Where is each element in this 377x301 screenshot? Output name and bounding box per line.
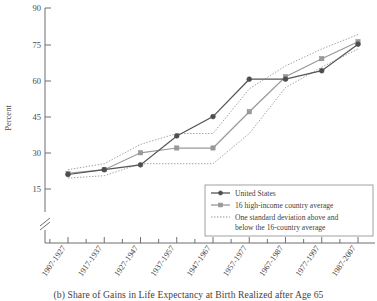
x-axis-tick-labels: 1907-19271917-19371927-19471937-19571947… xyxy=(40,244,358,278)
data-point-us xyxy=(283,77,288,82)
legend-label-us: United States xyxy=(235,189,276,198)
y-axis-ticks xyxy=(45,8,51,189)
data-point-us xyxy=(102,167,107,172)
data-point-us xyxy=(66,172,71,177)
data-point-us xyxy=(211,114,216,119)
data-point-average xyxy=(247,110,251,114)
data-point-average xyxy=(320,57,324,61)
legend-label-std-line2: below the 16-country average xyxy=(235,223,326,232)
x-tick-label: 1987-2007 xyxy=(330,244,358,278)
std-dev-band-line xyxy=(68,49,358,178)
chart-svg: Percent 90 75 60 45 30 15 1907-19271917-… xyxy=(0,0,377,301)
y-axis-title: Percent xyxy=(3,105,13,131)
figure-panel-b: Percent 90 75 60 45 30 15 1907-19271917-… xyxy=(0,0,377,301)
data-point-average xyxy=(211,146,215,150)
x-tick-label: 1967-1987 xyxy=(257,244,285,278)
axis-break-marker xyxy=(40,218,50,230)
series-line-average xyxy=(68,42,358,174)
x-tick-label: 1947-1967 xyxy=(185,244,213,278)
x-tick-label: 1927-1947 xyxy=(112,244,140,278)
data-point-us xyxy=(247,77,252,82)
y-tick-label-90: 90 xyxy=(33,3,42,13)
data-point-us xyxy=(138,162,143,167)
series-line-us xyxy=(68,44,358,174)
data-point-us xyxy=(356,42,361,47)
data-point-average xyxy=(138,151,142,155)
data-point-us xyxy=(174,134,179,139)
legend-square-marker-icon xyxy=(219,203,223,207)
data-point-us xyxy=(319,68,324,73)
y-tick-label-45: 45 xyxy=(33,112,42,122)
y-tick-label-15: 15 xyxy=(33,184,42,194)
x-tick-label: 1977-1997 xyxy=(294,244,322,278)
x-axis-ticks xyxy=(50,237,358,243)
legend-circle-marker-icon xyxy=(218,191,222,195)
x-tick-label: 1917-1937 xyxy=(76,244,104,278)
x-tick-label: 1937-1957 xyxy=(149,244,177,278)
y-tick-label-75: 75 xyxy=(33,40,42,50)
plot-series-group xyxy=(66,35,361,179)
legend-label-avg: 16 high-income country average xyxy=(235,201,334,210)
y-tick-label-30: 30 xyxy=(33,148,42,158)
x-tick-label: 1957-1977 xyxy=(221,244,249,278)
legend[interactable]: United States 16 high-income country ave… xyxy=(205,185,373,236)
y-tick-label-60: 60 xyxy=(33,76,42,86)
data-point-average xyxy=(175,146,179,150)
x-tick-label: 1907-1927 xyxy=(40,244,68,278)
legend-label-std-line1: One standard deviation above and xyxy=(235,213,339,222)
figure-caption: (b) Share of Gains in Life Expectancy at… xyxy=(0,289,377,300)
